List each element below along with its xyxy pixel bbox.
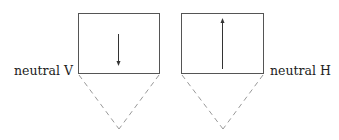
arrowhead-down-icon xyxy=(117,61,121,66)
dashed-line xyxy=(119,75,159,129)
panel-neutral-h xyxy=(182,14,264,130)
dashed-line xyxy=(79,75,119,129)
label-neutral-v: neutral V xyxy=(14,63,73,78)
arrowhead-up-icon xyxy=(221,18,225,23)
dashed-line xyxy=(182,75,223,129)
dashed-line xyxy=(223,75,263,129)
panel-neutral-v xyxy=(79,14,160,130)
label-neutral-h: neutral H xyxy=(270,63,331,78)
